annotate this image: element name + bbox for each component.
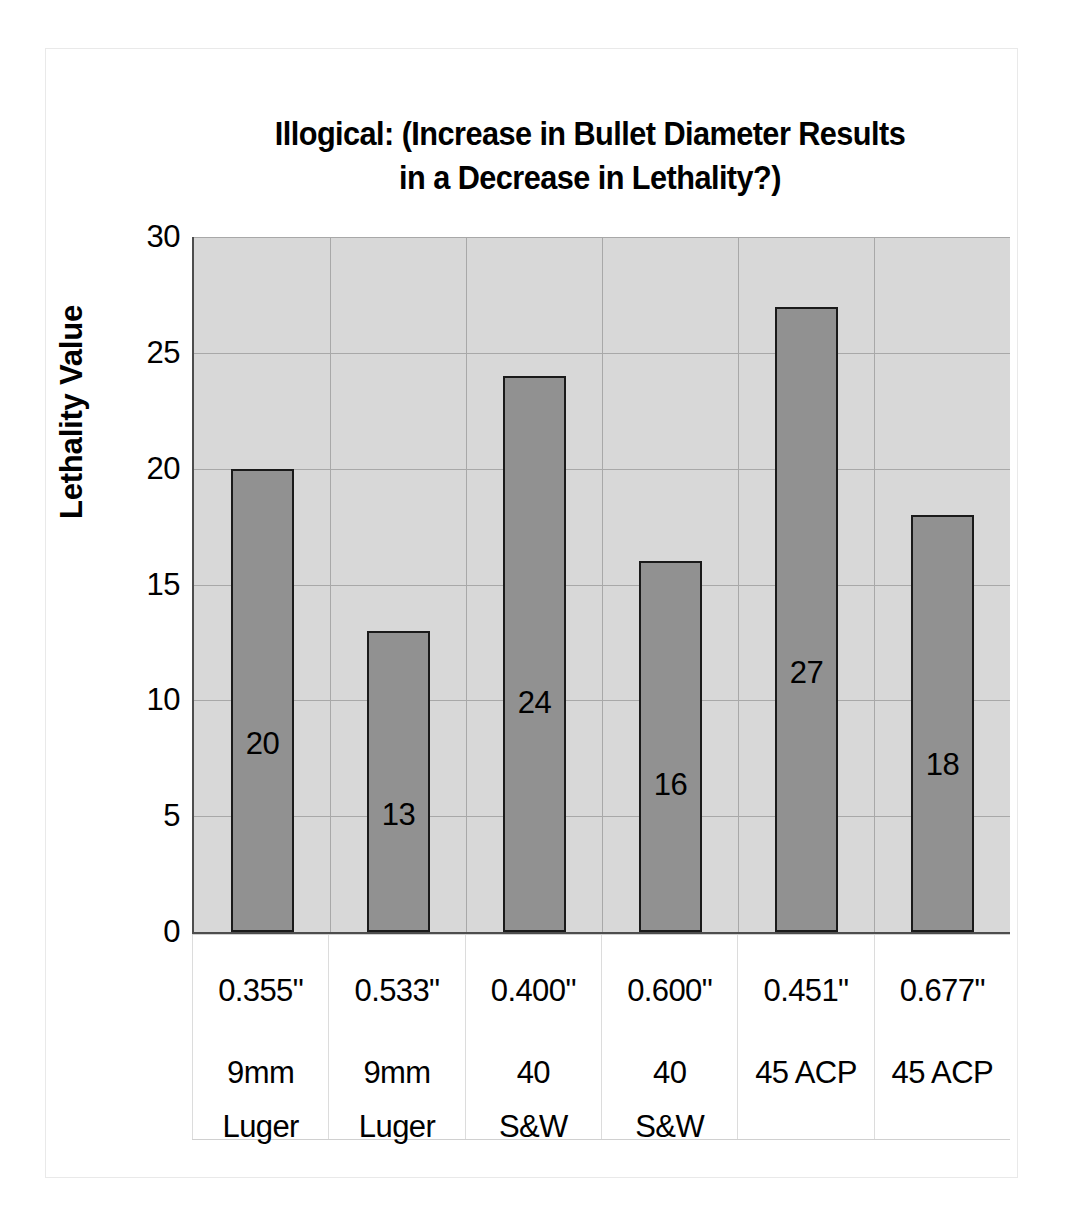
category-column: 0.677"45 ACP bbox=[875, 935, 1010, 1139]
category-diameter-label: 0.533" bbox=[329, 975, 464, 1006]
y-axis-tick-label: 20 bbox=[60, 453, 180, 484]
category-diameter-label: 0.400" bbox=[466, 975, 601, 1006]
category-cartridge-label-line2: S&W bbox=[602, 1111, 737, 1142]
category-diameter-label: 0.677" bbox=[875, 975, 1010, 1006]
category-cartridge-label-line1: 45 ACP bbox=[875, 1057, 1010, 1088]
bar bbox=[775, 307, 838, 933]
category-cartridge-label-line1: 45 ACP bbox=[738, 1057, 873, 1088]
bar bbox=[503, 376, 566, 932]
bar-value-label: 24 bbox=[503, 687, 566, 718]
bar-value-label: 16 bbox=[639, 769, 702, 800]
gridline-vertical bbox=[466, 237, 467, 932]
bar bbox=[639, 561, 702, 932]
bar-value-label: 27 bbox=[775, 657, 838, 688]
category-cartridge-label-line1: 40 bbox=[466, 1057, 601, 1088]
category-cartridge-label-line1: 9mm bbox=[329, 1057, 464, 1088]
y-axis-tick-label: 30 bbox=[60, 221, 180, 252]
category-column: 0.600"40S&W bbox=[602, 935, 738, 1139]
chart-figure: Illogical: (Increase in Bullet Diameter … bbox=[0, 0, 1065, 1228]
gridline-vertical bbox=[874, 237, 875, 932]
plot-inner: 201324162718 bbox=[194, 237, 1010, 932]
bar-value-label: 13 bbox=[367, 799, 430, 830]
category-column: 0.400"40S&W bbox=[466, 935, 602, 1139]
category-diameter-label: 0.600" bbox=[602, 975, 737, 1006]
gridline-vertical bbox=[330, 237, 331, 932]
y-axis-tick-label: 25 bbox=[60, 337, 180, 368]
y-axis-tick-label: 0 bbox=[60, 916, 180, 947]
bar-value-label: 20 bbox=[231, 728, 294, 759]
y-axis-tick-label: 5 bbox=[60, 800, 180, 831]
category-column: 0.355"9mmLuger bbox=[192, 935, 329, 1139]
category-cartridge-label-line2: S&W bbox=[466, 1111, 601, 1142]
plot-area: 201324162718 bbox=[192, 237, 1010, 932]
category-column: 0.451"45 ACP bbox=[738, 935, 874, 1139]
category-label-table: 0.355"9mmLuger0.533"9mmLuger0.400"40S&W0… bbox=[192, 934, 1010, 1140]
bar bbox=[911, 515, 974, 932]
y-axis-tick-label: 10 bbox=[60, 684, 180, 715]
category-diameter-label: 0.451" bbox=[738, 975, 873, 1006]
category-cartridge-label-line2: Luger bbox=[193, 1111, 328, 1142]
category-diameter-label: 0.355" bbox=[193, 975, 328, 1006]
bar bbox=[231, 469, 294, 932]
category-cartridge-label-line1: 40 bbox=[602, 1057, 737, 1088]
bar bbox=[367, 631, 430, 932]
category-cartridge-label-line2: Luger bbox=[329, 1111, 464, 1142]
gridline-vertical bbox=[738, 237, 739, 932]
gridline-vertical bbox=[602, 237, 603, 932]
category-column: 0.533"9mmLuger bbox=[329, 935, 465, 1139]
chart-title: Illogical: (Increase in Bullet Diameter … bbox=[181, 112, 999, 200]
y-axis-tick-label: 15 bbox=[60, 569, 180, 600]
y-axis-tick-labels: 302520151050 bbox=[40, 0, 180, 1228]
category-cartridge-label-line1: 9mm bbox=[193, 1057, 328, 1088]
bar-value-label: 18 bbox=[911, 749, 974, 780]
